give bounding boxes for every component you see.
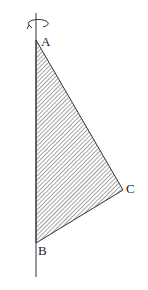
vertex-label-a: A: [41, 35, 50, 48]
rotation-diagram: [0, 0, 148, 290]
vertex-label-c: C: [126, 182, 135, 195]
vertex-label-b: B: [38, 244, 47, 257]
triangle-abc: [36, 40, 123, 243]
rotation-arrow-icon: [27, 19, 48, 29]
